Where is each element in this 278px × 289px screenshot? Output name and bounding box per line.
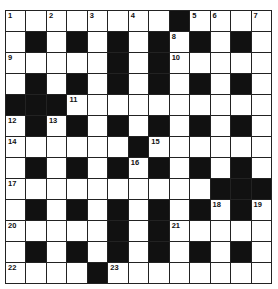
crossword-cell[interactable]: 4 bbox=[129, 11, 148, 31]
crossword-cell[interactable]: 23 bbox=[108, 263, 127, 283]
crossword-cell[interactable]: 22 bbox=[6, 263, 25, 283]
crossword-cell[interactable] bbox=[67, 179, 86, 199]
crossword-cell[interactable]: 14 bbox=[6, 137, 25, 157]
crossword-cell[interactable] bbox=[190, 221, 209, 241]
crossword-cell[interactable] bbox=[149, 263, 168, 283]
crossword-cell[interactable] bbox=[170, 242, 189, 262]
crossword-cell[interactable] bbox=[108, 11, 127, 31]
crossword-cell[interactable] bbox=[211, 137, 230, 157]
crossword-cell[interactable] bbox=[231, 137, 250, 157]
crossword-cell[interactable] bbox=[67, 11, 86, 31]
crossword-cell[interactable] bbox=[231, 95, 250, 115]
crossword-cell[interactable] bbox=[47, 263, 66, 283]
crossword-cell[interactable] bbox=[252, 53, 271, 73]
crossword-cell[interactable] bbox=[211, 242, 230, 262]
crossword-cell[interactable]: 10 bbox=[170, 53, 189, 73]
crossword-cell[interactable] bbox=[129, 221, 148, 241]
crossword-cell[interactable] bbox=[88, 242, 107, 262]
crossword-cell[interactable] bbox=[211, 95, 230, 115]
crossword-cell[interactable] bbox=[149, 95, 168, 115]
crossword-cell[interactable] bbox=[252, 32, 271, 52]
crossword-cell[interactable] bbox=[231, 11, 250, 31]
crossword-cell[interactable] bbox=[211, 74, 230, 94]
crossword-cell[interactable] bbox=[26, 11, 45, 31]
crossword-cell[interactable] bbox=[67, 221, 86, 241]
crossword-cell[interactable] bbox=[6, 242, 25, 262]
crossword-cell[interactable] bbox=[211, 263, 230, 283]
crossword-cell[interactable] bbox=[6, 200, 25, 220]
crossword-cell[interactable] bbox=[211, 158, 230, 178]
crossword-cell[interactable] bbox=[47, 53, 66, 73]
crossword-cell[interactable] bbox=[211, 221, 230, 241]
crossword-cell[interactable]: 12 bbox=[6, 116, 25, 136]
crossword-cell[interactable] bbox=[231, 263, 250, 283]
crossword-cell[interactable] bbox=[129, 179, 148, 199]
crossword-cell[interactable] bbox=[211, 53, 230, 73]
crossword-cell[interactable] bbox=[129, 116, 148, 136]
crossword-cell[interactable]: 11 bbox=[67, 95, 86, 115]
crossword-cell[interactable] bbox=[88, 158, 107, 178]
crossword-cell[interactable]: 3 bbox=[88, 11, 107, 31]
crossword-cell[interactable] bbox=[190, 137, 209, 157]
crossword-cell[interactable] bbox=[88, 116, 107, 136]
crossword-cell[interactable] bbox=[170, 137, 189, 157]
crossword-cell[interactable] bbox=[88, 200, 107, 220]
crossword-cell[interactable] bbox=[108, 137, 127, 157]
crossword-cell[interactable] bbox=[190, 263, 209, 283]
crossword-cell[interactable] bbox=[190, 95, 209, 115]
crossword-cell[interactable]: 13 bbox=[47, 116, 66, 136]
crossword-cell[interactable] bbox=[47, 179, 66, 199]
crossword-cell[interactable] bbox=[129, 74, 148, 94]
crossword-cell[interactable] bbox=[252, 137, 271, 157]
crossword-cell[interactable]: 18 bbox=[211, 200, 230, 220]
crossword-cell[interactable] bbox=[88, 179, 107, 199]
crossword-cell[interactable] bbox=[252, 116, 271, 136]
crossword-cell[interactable] bbox=[26, 221, 45, 241]
crossword-cell[interactable]: 20 bbox=[6, 221, 25, 241]
crossword-cell[interactable] bbox=[88, 137, 107, 157]
crossword-cell[interactable] bbox=[211, 32, 230, 52]
crossword-cell[interactable] bbox=[67, 137, 86, 157]
crossword-cell[interactable] bbox=[129, 32, 148, 52]
crossword-cell[interactable] bbox=[170, 263, 189, 283]
crossword-cell[interactable]: 8 bbox=[170, 32, 189, 52]
crossword-cell[interactable] bbox=[129, 53, 148, 73]
crossword-cell[interactable] bbox=[88, 221, 107, 241]
crossword-cell[interactable] bbox=[88, 95, 107, 115]
crossword-cell[interactable] bbox=[6, 74, 25, 94]
crossword-cell[interactable] bbox=[47, 137, 66, 157]
crossword-cell[interactable]: 9 bbox=[6, 53, 25, 73]
crossword-cell[interactable] bbox=[252, 95, 271, 115]
crossword-cell[interactable] bbox=[129, 263, 148, 283]
crossword-cell[interactable]: 5 bbox=[190, 11, 209, 31]
crossword-cell[interactable] bbox=[108, 179, 127, 199]
crossword-cell[interactable] bbox=[252, 263, 271, 283]
crossword-cell[interactable] bbox=[47, 74, 66, 94]
crossword-cell[interactable] bbox=[67, 263, 86, 283]
crossword-cell[interactable] bbox=[47, 242, 66, 262]
crossword-cell[interactable] bbox=[190, 179, 209, 199]
crossword-cell[interactable] bbox=[47, 200, 66, 220]
crossword-cell[interactable]: 15 bbox=[149, 137, 168, 157]
crossword-cell[interactable] bbox=[67, 53, 86, 73]
crossword-cell[interactable]: 17 bbox=[6, 179, 25, 199]
crossword-cell[interactable]: 19 bbox=[252, 200, 271, 220]
crossword-cell[interactable] bbox=[170, 158, 189, 178]
crossword-cell[interactable] bbox=[252, 242, 271, 262]
crossword-cell[interactable] bbox=[170, 179, 189, 199]
crossword-cell[interactable] bbox=[129, 95, 148, 115]
crossword-cell[interactable] bbox=[47, 158, 66, 178]
crossword-cell[interactable] bbox=[6, 158, 25, 178]
crossword-cell[interactable] bbox=[252, 74, 271, 94]
crossword-cell[interactable] bbox=[170, 200, 189, 220]
crossword-cell[interactable] bbox=[231, 53, 250, 73]
crossword-cell[interactable] bbox=[88, 32, 107, 52]
crossword-cell[interactable] bbox=[47, 32, 66, 52]
crossword-cell[interactable] bbox=[88, 74, 107, 94]
crossword-cell[interactable] bbox=[252, 221, 271, 241]
crossword-cell[interactable] bbox=[108, 95, 127, 115]
crossword-cell[interactable]: 7 bbox=[252, 11, 271, 31]
crossword-cell[interactable] bbox=[252, 158, 271, 178]
crossword-cell[interactable] bbox=[190, 53, 209, 73]
crossword-cell[interactable] bbox=[149, 179, 168, 199]
